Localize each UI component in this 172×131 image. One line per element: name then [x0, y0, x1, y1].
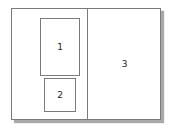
region-3-label: 3: [122, 59, 128, 69]
region-2: 2: [44, 78, 76, 112]
region-1-label: 1: [57, 42, 63, 52]
region-1: 1: [40, 18, 80, 76]
region-2-label: 2: [57, 90, 63, 100]
page-layout: 1 2 3: [11, 8, 161, 120]
region-3: 3: [88, 9, 161, 119]
